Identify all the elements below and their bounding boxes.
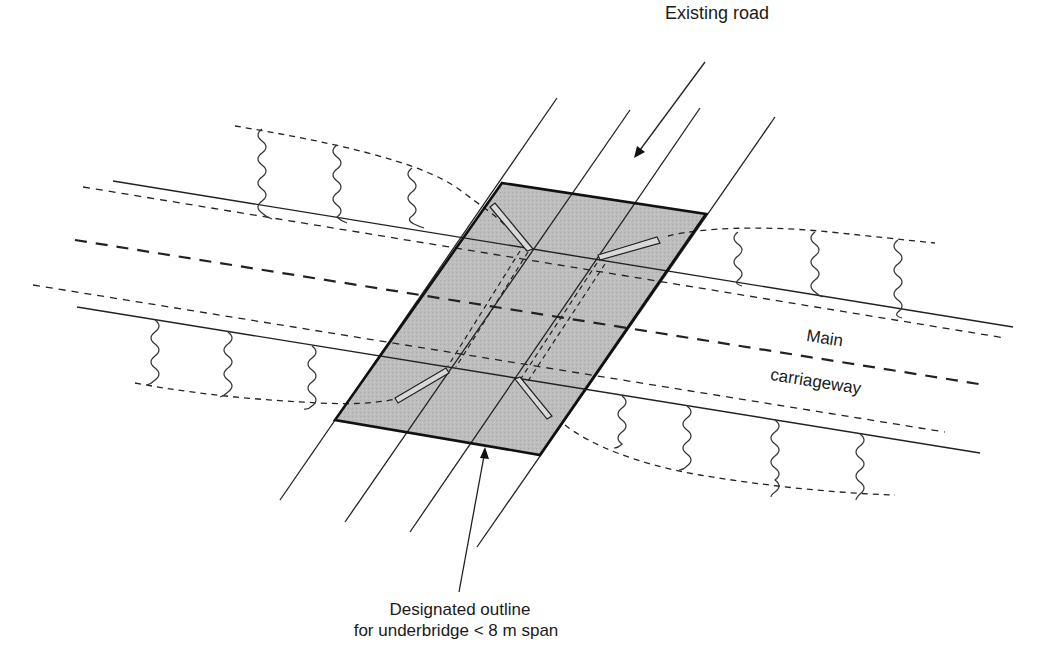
designated-outline-label-line1: Designated outline [390, 600, 531, 620]
slope-hatching-bottom-right [614, 396, 864, 500]
slope-hatching-top-left [258, 129, 424, 228]
embankment-top-right-dashed [668, 228, 935, 243]
arrowhead-icon [634, 146, 645, 158]
designated-outline-arrow [459, 447, 489, 592]
embankment-bottom-right-dashed [565, 425, 895, 495]
existing-road-arrow [634, 62, 705, 158]
embankment-top-left-dashed [235, 126, 505, 225]
designated-outline-label-line2: for underbridge < 8 m span [354, 621, 559, 641]
existing-road-label: Existing road [665, 3, 769, 23]
underbridge-diagram [0, 0, 1047, 672]
slope-hatching-bottom-left [147, 320, 316, 409]
arrowhead-icon [480, 447, 489, 459]
bridge-outline-shaded-area [335, 183, 706, 455]
